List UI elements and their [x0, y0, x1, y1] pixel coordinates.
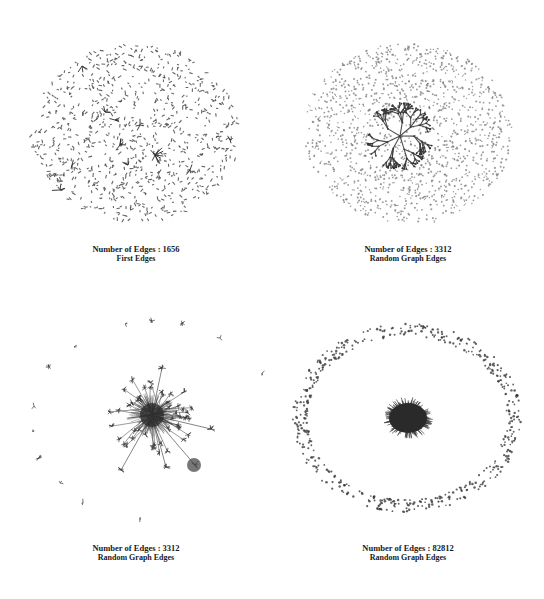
graph-edge [144, 57, 145, 59]
graph-node [482, 77, 484, 79]
graph-node [418, 64, 420, 66]
graph-node [513, 412, 515, 414]
graph-edge [78, 66, 82, 72]
graph-node [464, 193, 466, 195]
graph-node [467, 129, 469, 131]
graph-node [443, 92, 445, 94]
graph-node [460, 487, 462, 489]
graph-node [418, 194, 420, 196]
graph-node [374, 187, 376, 189]
graph-node [446, 335, 448, 337]
graph-node [341, 346, 343, 348]
graph-node [473, 200, 475, 202]
graph-node [438, 163, 440, 165]
graph-node [443, 96, 444, 97]
graph-edge [117, 136, 118, 139]
graph-edge [52, 82, 53, 86]
graph-node [454, 185, 456, 187]
graph-node [438, 149, 440, 151]
graph-node [441, 201, 443, 203]
graph-node [446, 144, 448, 146]
graph-edge [122, 53, 125, 55]
graph-edge [206, 191, 207, 194]
graph-node [421, 65, 423, 67]
graph-node [319, 362, 321, 364]
graph-node [357, 63, 359, 65]
graph-node [415, 163, 417, 165]
graph-edge [342, 179, 344, 181]
graph-node [486, 159, 488, 161]
graph-node [399, 102, 401, 104]
graph-node [452, 212, 454, 214]
graph-node [387, 112, 389, 114]
graph-node [407, 164, 409, 166]
graph-edge [115, 53, 118, 55]
graph-node [383, 182, 385, 184]
graph-edge [96, 54, 99, 56]
graph-edge [67, 86, 68, 90]
graph-node [370, 200, 372, 202]
graph-edge [372, 140, 378, 143]
graph-edge [148, 181, 150, 183]
graph-edge [47, 174, 48, 177]
graph-edge [111, 63, 112, 65]
graph-node [466, 489, 468, 491]
graph-edge [178, 177, 179, 180]
graph-node [443, 196, 445, 198]
graph-node [353, 168, 355, 170]
graph-node [445, 157, 447, 159]
graph-node [364, 144, 366, 146]
graph-node [432, 185, 434, 187]
graph-edge [155, 132, 156, 135]
graph-edge [129, 140, 133, 141]
graph-edge [73, 118, 75, 119]
graph-node [440, 157, 442, 159]
graph-edge [201, 166, 205, 167]
graph-edge [42, 140, 43, 144]
graph-node [457, 159, 459, 161]
graph-edge [173, 53, 174, 54]
graph-node [342, 134, 344, 136]
graph-node [303, 446, 305, 448]
graph-node [445, 210, 447, 212]
graph-node [512, 415, 515, 418]
graph-node [479, 101, 481, 103]
graph-node [471, 92, 473, 94]
graph-node [353, 88, 355, 90]
graph-node [460, 158, 462, 160]
graph-edge [216, 133, 219, 134]
graph-node [472, 159, 474, 161]
graph-edge [81, 208, 84, 209]
graph-edge [151, 46, 153, 47]
graph-node [495, 105, 497, 107]
graph-node [378, 102, 379, 103]
graph-node [489, 466, 491, 468]
graph-node [453, 201, 455, 203]
graph-node [335, 149, 337, 151]
graph-node [450, 54, 452, 56]
graph-edge [99, 90, 102, 91]
graph-edge [180, 128, 181, 131]
graph-node [488, 114, 489, 115]
graph-node [482, 151, 484, 153]
graph-edge [48, 112, 50, 113]
graph-node [324, 80, 326, 82]
graph-node [489, 126, 491, 128]
graph-edge [153, 75, 156, 76]
graph-node [375, 79, 377, 81]
graph-node [492, 109, 494, 111]
graph-edge [97, 67, 100, 69]
graph-node [394, 97, 395, 98]
graph-node [335, 113, 337, 115]
graph-edge [360, 153, 361, 156]
graph-node [431, 158, 433, 160]
graph-node [420, 164, 422, 166]
graph-node [511, 433, 513, 435]
graph-node [361, 132, 363, 134]
graph-edge [125, 323, 127, 324]
graph-edge [109, 74, 110, 76]
graph-edge [145, 70, 147, 71]
graph-node [441, 500, 443, 502]
graph-edge [58, 143, 60, 146]
graph-node [413, 508, 415, 510]
